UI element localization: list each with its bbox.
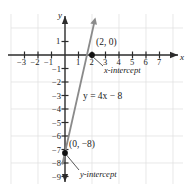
y-tick-label--8: −8: [52, 159, 61, 168]
y-tick-label--4: −4: [52, 105, 61, 114]
x-tick-label-7: 7: [157, 58, 161, 67]
y-tick-label--1: −1: [52, 65, 61, 74]
x-tick-label--2: −2: [31, 58, 40, 67]
y-tick-label--2: −2: [52, 78, 61, 87]
annotation-leaders: [67, 57, 104, 171]
y-tick-label-1: 1: [56, 37, 60, 46]
y-tick-label--5: −5: [52, 119, 61, 128]
graph-figure: −3 −2 −1 1 2 3 4 5 6 7 1 −1 −2 −3 −4 −5 …: [0, 0, 192, 191]
y-axis-label: y: [58, 11, 62, 20]
x-tick-label-2: 2: [90, 58, 94, 67]
y-tick-label--3: −3: [52, 92, 61, 101]
y-tick-label--6: −6: [52, 132, 61, 141]
y-tick-label--7: −7: [52, 146, 61, 155]
point-label-x-intercept: (2, 0): [96, 38, 117, 48]
x-tick-label--3: −3: [17, 58, 26, 67]
equation-label: y = 4x − 8: [83, 92, 122, 102]
point-label-y-intercept: (0, −8): [69, 140, 95, 150]
x-tick-label-1: 1: [76, 58, 80, 67]
x-axis-label: x: [180, 53, 184, 62]
y-tick-label--9: −9: [52, 173, 61, 182]
y-axis: [62, 16, 69, 182]
x-tick-label-6: 6: [144, 58, 148, 67]
y-intercept-annotation: y-intercept: [80, 170, 117, 179]
x-intercept-annotation: x-intercept: [104, 66, 141, 75]
